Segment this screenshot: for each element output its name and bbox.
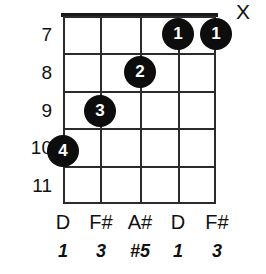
- interval-row: 1 3 #5 1 3: [0, 240, 266, 266]
- interval-label-string-5: 3: [187, 240, 247, 262]
- chord-diagram: 7 8 9 10 11 X 1 1 2 3 4 D F# A# D F# 1 3: [0, 0, 266, 274]
- fret-number-column: 7 8 9 10 11: [0, 16, 52, 204]
- fret-number-7: 7: [8, 25, 52, 44]
- finger-dot-string5-fret7[interactable]: 1: [200, 18, 232, 50]
- fret-number-10: 10: [8, 138, 52, 157]
- string-line-1: [63, 16, 65, 204]
- fret-number-9: 9: [8, 101, 52, 120]
- finger-dot-string3-fret8[interactable]: 2: [124, 56, 156, 88]
- note-name-row: D F# A# D F#: [0, 210, 266, 236]
- finger-dot-string4-fret7[interactable]: 1: [162, 18, 194, 50]
- note-label-string-5: F#: [187, 210, 247, 234]
- string-line-3: [140, 16, 142, 204]
- finger-dot-string1-fret10[interactable]: 4: [47, 135, 79, 167]
- mute-x-icon: X: [234, 2, 252, 22]
- fret-number-8: 8: [8, 63, 52, 82]
- finger-dot-string2-fret9[interactable]: 3: [84, 95, 116, 127]
- fret-number-11: 11: [8, 176, 52, 195]
